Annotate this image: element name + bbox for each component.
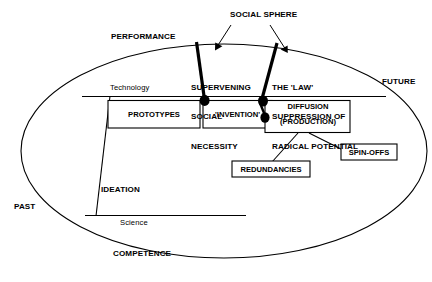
invention-box-label: 'INVENTION' <box>203 110 272 119</box>
law-line-1: THE 'LAW' <box>272 83 358 93</box>
ideation-band-label: IDEATION <box>101 186 140 195</box>
diffusion-box-label: DIFFUSION <box>266 102 350 111</box>
performance-axis-label: PERFORMANCE <box>111 33 176 42</box>
production-box-label: (PRODUCTION) <box>266 117 350 126</box>
diagram-canvas: SOCIAL SPHERE PERFORMANCE FUTURE PAST CO… <box>0 0 432 282</box>
redundancies-box-label: REDUNDANCIES <box>232 165 310 174</box>
social-sphere-label: SOCIAL SPHERE <box>230 11 297 20</box>
social-sphere-arrow-left <box>215 25 231 51</box>
supervening-line-3: NECESSITY <box>191 142 251 152</box>
past-axis-label: PAST <box>14 203 35 212</box>
competence-axis-label: COMPETENCE <box>113 250 171 259</box>
science-band-label: Science <box>120 219 148 227</box>
spinoffs-box-label: SPIN-OFFS <box>341 148 397 157</box>
supervening-line-1: SUPERVENING <box>191 83 251 93</box>
technology-band-label: Technology <box>110 84 149 92</box>
prototypes-box-label: PROTOTYPES <box>108 110 200 119</box>
social-sphere-arrow-right <box>270 25 288 53</box>
future-axis-label: FUTURE <box>382 78 415 87</box>
